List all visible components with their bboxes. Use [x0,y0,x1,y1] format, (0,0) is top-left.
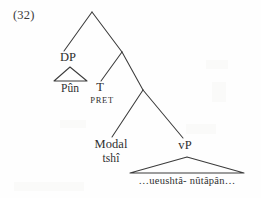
terminal-vp-string: …ueushtâ- nûtâpân… [139,175,236,186]
tree-branches [0,0,261,198]
branch-tbar-t [101,52,122,81]
node-modal: Modal [94,137,127,152]
branch-modp-vp [143,90,183,138]
node-t-feature-pret: PRET [90,95,114,105]
branch-tbar-modp [122,52,143,90]
dp-triangle [54,67,87,81]
branch-root-dp [64,12,92,51]
vp-triangle [130,157,244,173]
branch-root-tbar [92,12,122,52]
syntax-tree-figure: (32) DP Pûn T PRET Modal tshî vP …ueusht… [0,0,261,198]
branch-modp-modal [112,90,143,137]
terminal-dp-pun: Pûn [61,82,79,94]
node-t: T [96,80,104,95]
terminal-modal-tshi: tshî [102,152,119,164]
node-vp: vP [178,138,191,153]
node-dp: DP [60,50,76,65]
